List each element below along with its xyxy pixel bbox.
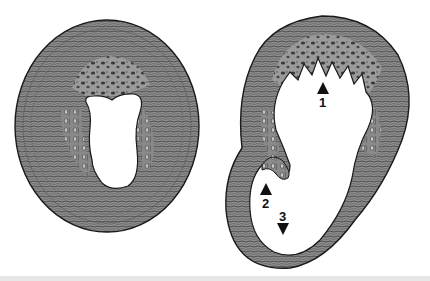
bottom-divider bbox=[0, 276, 430, 281]
right-cross-section bbox=[226, 16, 409, 268]
figure: 1 2 3 bbox=[0, 0, 430, 281]
label-2: 2 bbox=[262, 197, 269, 210]
label-1: 1 bbox=[319, 96, 326, 109]
left-cross-section bbox=[15, 20, 199, 232]
label-3: 3 bbox=[279, 210, 286, 223]
illustration bbox=[0, 0, 430, 281]
